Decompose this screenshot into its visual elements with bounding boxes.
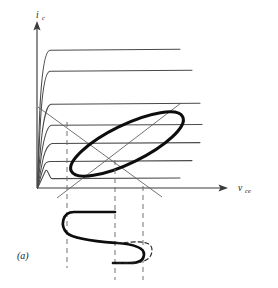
ac-load-line: [57, 103, 181, 198]
x-axis-label: v: [238, 183, 243, 193]
load-lines-group: [38, 103, 181, 198]
output-waveform-group: [63, 212, 152, 263]
figure-caption: (a): [17, 250, 29, 262]
characteristic-curve-5: [38, 103, 201, 188]
output-voltage-waveform-solid: [63, 212, 144, 263]
figure-canvas: i c v ce: [0, 0, 278, 288]
y-axis-label-subscript: c: [42, 14, 45, 21]
projection-lines-group: [67, 122, 143, 280]
transistor-characteristic-figure: i c v ce: [0, 0, 278, 288]
axis-labels: i c v ce: [36, 10, 251, 194]
x-axis-label-subscript: ce: [245, 187, 251, 194]
axis-group: [33, 21, 228, 192]
y-axis-label: i: [36, 10, 39, 20]
dc-load-line: [38, 107, 162, 197]
